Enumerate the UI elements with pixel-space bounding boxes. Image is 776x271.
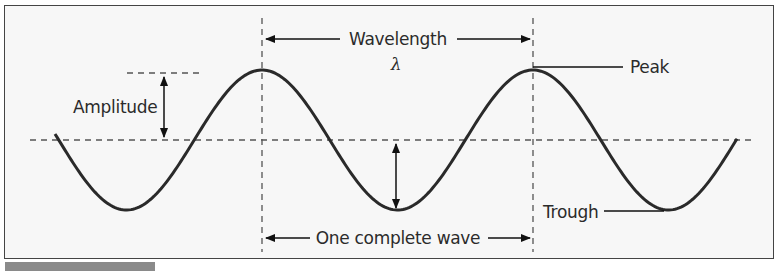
complete-wave-label: One complete wave — [316, 228, 481, 248]
amplitude-label: Amplitude — [73, 97, 157, 117]
trough-label: Trough — [542, 202, 598, 222]
lambda-symbol: λ — [390, 54, 401, 74]
wave-diagram: Amplitude Wavelength λ Peak Trough One c… — [0, 0, 776, 271]
wavelength-label: Wavelength — [349, 29, 447, 49]
peak-label: Peak — [630, 57, 670, 77]
